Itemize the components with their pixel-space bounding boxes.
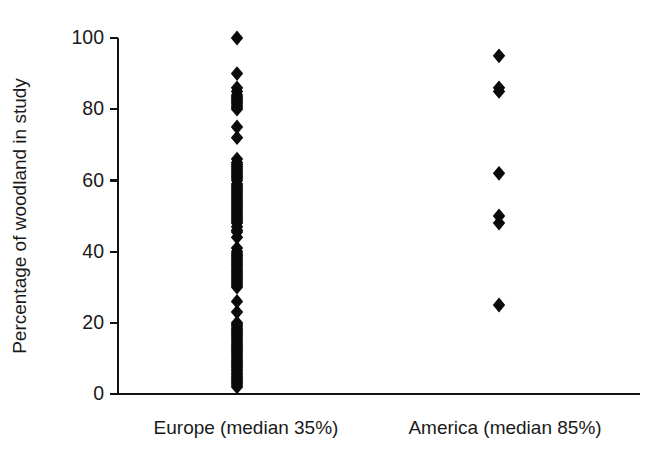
dot-strip-plot: 100806040200 Percentage of woodland in s… (0, 0, 659, 462)
data-point-diamond (231, 66, 243, 81)
y-axis-tick-label: 60 (82, 169, 104, 191)
chart-figure: 100806040200 Percentage of woodland in s… (0, 0, 659, 462)
data-points (231, 31, 505, 395)
y-axis-tick-label: 80 (82, 97, 104, 119)
data-point-diamond (231, 31, 243, 46)
x-axis-category-label-america: America (median 85%) (408, 417, 601, 438)
axes (118, 38, 640, 394)
y-axis-tick-label: 20 (82, 311, 104, 333)
y-axis-tick-label: 100 (71, 26, 104, 48)
y-axis-tick-labels: 100806040200 (71, 26, 104, 404)
y-axis-ticks (110, 38, 118, 394)
y-axis-title: Percentage of woodland in study (9, 78, 30, 354)
data-point-diamond (493, 48, 505, 63)
y-axis-tick-label: 40 (82, 240, 104, 262)
data-point-diamond (493, 166, 505, 181)
y-axis-tick-label: 0 (93, 382, 104, 404)
x-axis-category-label-europe: Europe (median 35%) (154, 417, 339, 438)
data-point-diamond (493, 298, 505, 313)
data-point-diamond (231, 130, 243, 145)
